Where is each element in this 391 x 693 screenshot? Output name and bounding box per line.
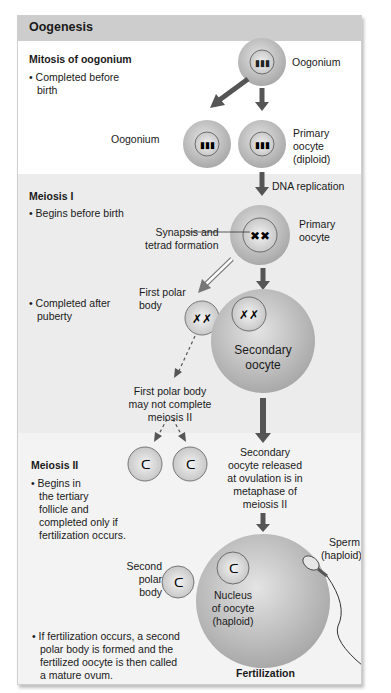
primary-oocyte-label: Primaryoocyte <box>299 218 335 244</box>
first-polar-body-label: First polarbody <box>139 286 186 312</box>
mitosis-bullet-2: birth <box>37 84 57 97</box>
fertilization-bullet: • If fertilization occurs, a secondpolar… <box>32 630 180 682</box>
polar-body-icon: ᑕ <box>173 447 207 481</box>
meiosis-i-heading: Meiosis I <box>29 190 73 203</box>
svg-text:▮▮▮: ▮▮▮ <box>255 58 270 68</box>
svg-text:ᑕ: ᑕ <box>229 561 238 576</box>
meiosis-i-bullet-2: • Completed afterpuberty <box>29 297 110 323</box>
svg-text:ᑕ: ᑕ <box>174 575 183 590</box>
secondary-released-label: Secondaryoocyte releasedat ovulation is … <box>213 446 317 511</box>
fertilization-label: Fertilization <box>236 667 295 680</box>
dna-replication-label: DNA replication <box>272 180 344 193</box>
nucleus-label: Nucleusof oocyte(haploid) <box>208 589 258 628</box>
secondary-oocyte-label: Secondaryoocyte <box>231 343 295 373</box>
oogenesis-figure: Oogenesis ▮▮▮ ▮▮▮ ▮▮▮ ✖✖ ✗✗ ✗✗ <box>17 15 362 685</box>
svg-text:▮▮▮: ▮▮▮ <box>255 140 270 150</box>
synapsis-label: Synapsis andtetrad formation <box>145 226 219 252</box>
meiosis-ii-heading: Meiosis II <box>31 459 78 472</box>
second-polar-body-icon: ᑕ <box>162 566 194 598</box>
svg-text:ᑕ: ᑕ <box>186 457 195 472</box>
svg-text:✗✗: ✗✗ <box>192 312 212 326</box>
svg-text:✖✖: ✖✖ <box>250 229 270 243</box>
svg-text:✗✗: ✗✗ <box>239 308 259 322</box>
oogonium-left-label: Oogonium <box>111 133 159 146</box>
primary-oocyte-diploid-icon: ▮▮▮ <box>238 120 286 168</box>
meiosis-ii-bullet: • Begins inthe tertiaryfollicle andcompl… <box>31 477 126 542</box>
oogonium-daughter-icon: ▮▮▮ <box>183 120 231 168</box>
svg-text:▮▮▮: ▮▮▮ <box>200 140 215 150</box>
sperm-label: Sperm(haploid) <box>321 536 362 562</box>
primary-oocyte-icon: ✖✖ <box>230 205 290 265</box>
secondary-oocyte-icon: ✗✗ <box>211 289 315 393</box>
polar-body-icon: ᑕ <box>128 447 162 481</box>
diagram-graphics: ▮▮▮ ▮▮▮ ▮▮▮ ✖✖ ✗✗ ✗✗ ᑕ ᑕ ᑕ ᑕ <box>18 16 361 684</box>
svg-text:ᑕ: ᑕ <box>141 457 150 472</box>
meiosis-i-bullet-1: • Begins before birth <box>29 207 124 220</box>
mitosis-heading: Mitosis of oogonium <box>29 53 132 66</box>
primary-oocyte-diploid-label: Primaryoocyte(diploid) <box>293 127 330 166</box>
second-polar-body-label: Secondpolarbody <box>118 560 162 599</box>
first-polar-body-note: First polar bodymay not completemeiosis … <box>118 385 222 424</box>
mitosis-bullet: • Completed before <box>29 71 119 84</box>
oogonium-label: Oogonium <box>292 56 340 69</box>
